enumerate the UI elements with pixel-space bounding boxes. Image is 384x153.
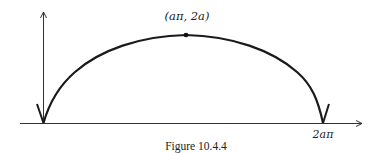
cycloid-diagram: (aπ, 2a) 2aπ Figure 10.4.4 bbox=[0, 0, 384, 153]
cycloid-curve bbox=[44, 35, 324, 123]
left-cusp-mark bbox=[37, 104, 44, 123]
right-cusp-mark bbox=[323, 104, 329, 123]
figure-caption: Figure 10.4.4 bbox=[165, 140, 227, 153]
peak-label: (aπ, 2a) bbox=[165, 9, 210, 23]
peak-point bbox=[184, 33, 189, 38]
end-label: 2aπ bbox=[312, 128, 335, 141]
